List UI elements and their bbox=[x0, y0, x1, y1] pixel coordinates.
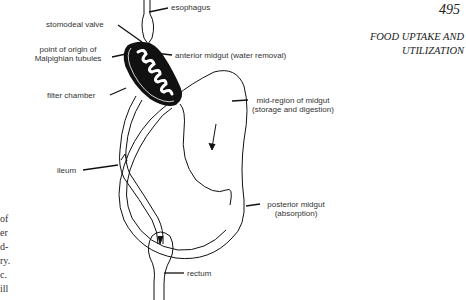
label-rectum: rectum bbox=[187, 269, 211, 278]
running-head: FOOD UPTAKE AND UTILIZATION bbox=[344, 30, 464, 58]
label-stomodeal-valve: stomodeal valve bbox=[46, 20, 104, 29]
label-anterior-midgut: anterior midgut (water removal) bbox=[175, 51, 286, 60]
ileum-shape bbox=[120, 96, 164, 244]
label-filter-chamber: filter chamber bbox=[47, 91, 95, 100]
page-number: 495 bbox=[439, 2, 460, 18]
label-posterior-midgut: posterior midgut (absorption) bbox=[260, 200, 332, 218]
filter-chamber-shape bbox=[124, 42, 181, 105]
side-caption-fragment: of er d- ry. c. ill bbox=[0, 212, 12, 296]
midgut-shape bbox=[119, 71, 247, 259]
label-esophagus: esophagus bbox=[171, 3, 210, 12]
label-ileum: ileum bbox=[57, 166, 76, 175]
label-malpighian-origin: point of origin of Malpighian tubules bbox=[26, 45, 110, 63]
esophagus-shape bbox=[142, 0, 154, 44]
running-head-line2: UTILIZATION bbox=[344, 44, 464, 58]
running-head-line1: FOOD UPTAKE AND bbox=[344, 30, 464, 44]
label-mid-region-midgut: mid-region of midgut (storage and digest… bbox=[240, 96, 346, 114]
